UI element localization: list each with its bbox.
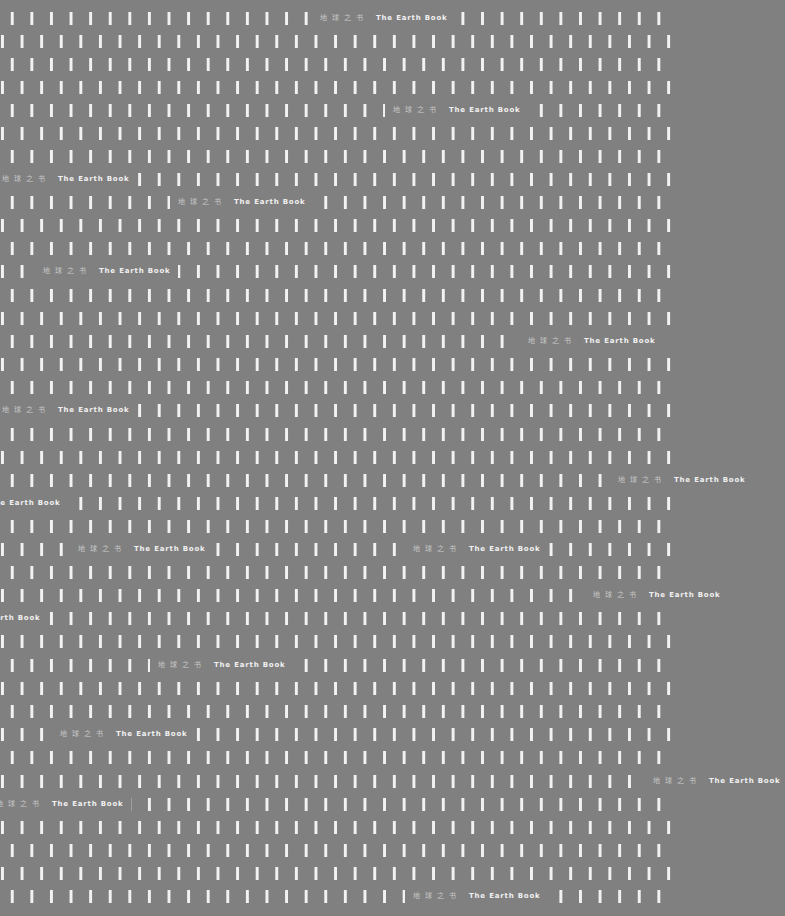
title-en: The Earth Book	[52, 800, 123, 808]
title-label: 地球之书The Earth Book	[170, 195, 313, 210]
title-label: 地球之书The Earth Book	[0, 496, 68, 511]
title-en: The Earth Book	[58, 406, 129, 414]
bar-row	[0, 58, 675, 71]
title-en: The Earth Book	[0, 499, 60, 507]
bar-row: 地球之书The Earth Book	[0, 173, 675, 186]
title-zh: 地球之书	[43, 267, 91, 275]
bar-row	[0, 821, 675, 834]
bar-row	[0, 520, 675, 533]
bar-row: 地球之书The Earth Book	[0, 589, 675, 602]
title-label: 地球之书The Earth Book	[405, 542, 548, 557]
title-label: 地球之书The Earth Book	[150, 658, 293, 673]
bar-row	[0, 451, 675, 464]
bar-row: 地球之书The Earth Book	[0, 265, 675, 278]
bar-row	[0, 358, 675, 371]
title-zh: 地球之书	[593, 591, 641, 599]
bar-row	[0, 242, 675, 255]
title-en: The Earth Book	[674, 476, 745, 484]
bar-row	[0, 381, 675, 394]
bar-row: 地球之书The Earth Book	[0, 659, 675, 672]
bar-row	[0, 867, 675, 880]
title-zh: 地球之书	[2, 406, 50, 414]
bar-row	[0, 682, 675, 695]
title-label: 地球之书The Earth Book	[312, 11, 455, 26]
bar-row	[0, 844, 675, 857]
title-zh: 地球之书	[78, 545, 126, 553]
title-label: 地球之书The Earth Book	[645, 774, 785, 789]
title-label: 地球之书The Earth Book	[35, 264, 178, 279]
title-label: 地球之书The Earth Book	[0, 797, 131, 812]
bar-row	[0, 428, 675, 441]
title-label: 地球之书The Earth Book	[0, 172, 137, 187]
title-zh: 地球之书	[2, 175, 50, 183]
bar-row: 地球之书The Earth Book地球之书The Earth Book	[0, 543, 675, 556]
title-label: 地球之书The Earth Book	[0, 403, 137, 418]
bar-row: 地球之书The Earth Book	[0, 196, 675, 209]
title-zh: 地球之书	[393, 106, 441, 114]
title-en: The Earth Book	[0, 614, 40, 622]
bar-row	[0, 289, 675, 302]
bar-row	[0, 219, 675, 232]
title-label: 地球之书The Earth Book	[585, 588, 728, 603]
bar-row	[0, 312, 675, 325]
title-en: The Earth Book	[449, 106, 520, 114]
title-label: 地球之书The Earth Book	[70, 542, 213, 557]
title-label: 地球之书The Earth Book	[52, 727, 195, 742]
title-label: 地球之书The Earth Book	[610, 473, 753, 488]
bar-row	[0, 635, 675, 648]
title-en: The Earth Book	[99, 267, 170, 275]
bar-row: 地球之书The Earth Book	[0, 612, 675, 625]
title-en: The Earth Book	[584, 337, 655, 345]
title-zh: 地球之书	[60, 730, 108, 738]
title-zh: 地球之书	[653, 777, 701, 785]
title-zh: 地球之书	[320, 14, 368, 22]
bar-row: 地球之书The Earth Book	[0, 798, 675, 811]
title-en: The Earth Book	[469, 892, 540, 900]
title-en: The Earth Book	[649, 591, 720, 599]
title-en: The Earth Book	[709, 777, 780, 785]
title-zh: 地球之书	[413, 545, 461, 553]
title-en: The Earth Book	[376, 14, 447, 22]
bar-row	[0, 751, 675, 764]
bar-row	[0, 705, 675, 718]
title-label: 地球之书The Earth Book	[520, 334, 663, 349]
title-zh: 地球之书	[413, 892, 461, 900]
title-zh: 地球之书	[158, 661, 206, 669]
bar-row: 地球之书The Earth Book	[0, 497, 675, 510]
title-label: 地球之书The Earth Book	[0, 611, 48, 626]
bar-row	[0, 35, 675, 48]
bar-row	[0, 566, 675, 579]
bar-row: 地球之书The Earth Book	[0, 775, 675, 788]
title-label: 地球之书The Earth Book	[405, 889, 548, 904]
bar-row: 地球之书The Earth Book	[0, 474, 675, 487]
bar-row: 地球之书The Earth Book	[0, 890, 675, 903]
bar-row	[0, 150, 675, 163]
bar-row: 地球之书The Earth Book	[0, 728, 675, 741]
bar-row: 地球之书The Earth Book	[0, 404, 675, 417]
title-zh: 地球之书	[618, 476, 666, 484]
title-zh: 地球之书	[178, 198, 226, 206]
title-en: The Earth Book	[469, 545, 540, 553]
title-en: The Earth Book	[116, 730, 187, 738]
bar-row	[0, 127, 675, 140]
title-zh: 地球之书	[528, 337, 576, 345]
title-zh: 地球之书	[0, 800, 44, 808]
title-en: The Earth Book	[234, 198, 305, 206]
title-label: 地球之书The Earth Book	[385, 103, 528, 118]
title-en: The Earth Book	[214, 661, 285, 669]
bar-row: 地球之书The Earth Book	[0, 335, 675, 348]
bar-row	[0, 81, 675, 94]
bar-row: 地球之书The Earth Book	[0, 104, 675, 117]
title-en: The Earth Book	[134, 545, 205, 553]
title-en: The Earth Book	[58, 175, 129, 183]
bar-row: 地球之书The Earth Book	[0, 12, 675, 25]
